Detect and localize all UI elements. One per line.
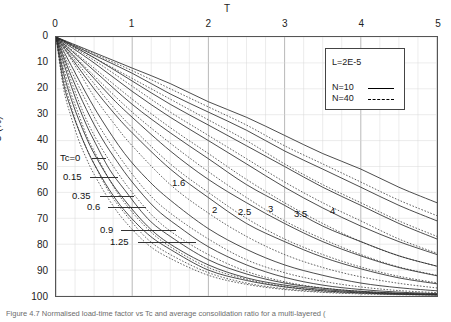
legend: L=2E-5 N=10 N=40 bbox=[325, 48, 405, 110]
curve-label: 2 bbox=[212, 204, 217, 215]
x-tick-label: 3 bbox=[273, 18, 297, 29]
curve-label-leader-line bbox=[92, 158, 106, 159]
curve-label: 1.25 bbox=[110, 236, 129, 247]
curve-label: 0.35 bbox=[72, 190, 91, 201]
x-tick-label: 2 bbox=[196, 18, 220, 29]
x-tick-label: 1 bbox=[120, 18, 144, 29]
curve-label-leader-line bbox=[108, 207, 146, 208]
y-tick-label: 100 bbox=[22, 291, 48, 303]
y-tick-label: 50 bbox=[22, 161, 48, 173]
curve-label-leader-line bbox=[100, 196, 134, 197]
y-tick-label: 80 bbox=[22, 239, 48, 251]
curve-label: 3 bbox=[268, 203, 273, 214]
curve-label: 3.5 bbox=[294, 208, 307, 219]
figure-container: T 012345 U (%) 0102030405060708090100 L=… bbox=[0, 0, 451, 322]
y-tick-label: 20 bbox=[22, 82, 48, 94]
curve-label: 0.15 bbox=[63, 171, 82, 182]
legend-title: L=2E-5 bbox=[332, 57, 361, 67]
curve-label: 2.5 bbox=[238, 206, 251, 217]
curve-label: 0.9 bbox=[100, 224, 113, 235]
x-axis-title: T bbox=[224, 3, 230, 14]
legend-swatch-solid-line bbox=[368, 88, 394, 89]
y-tick-label: 70 bbox=[22, 213, 48, 225]
curve-label-leader-line bbox=[90, 177, 118, 178]
curve-label-leader-line bbox=[121, 230, 176, 231]
y-tick-label: 60 bbox=[22, 187, 48, 199]
x-tick-label: 0 bbox=[43, 18, 67, 29]
curve-label-leader-line bbox=[138, 242, 196, 243]
y-axis-title: U (%) bbox=[0, 116, 3, 142]
y-tick-label: 10 bbox=[22, 56, 48, 68]
curve-label: 0.6 bbox=[87, 201, 100, 212]
y-tick-label: 40 bbox=[22, 134, 48, 146]
x-tick-label: 4 bbox=[349, 18, 373, 29]
legend-swatch-dashed-line bbox=[368, 99, 394, 100]
y-tick-label: 0 bbox=[22, 30, 48, 42]
legend-item-n10-label: N=10 bbox=[332, 82, 354, 92]
x-tick-label: 5 bbox=[426, 18, 450, 29]
figure-caption: Figure 4.7 Normalised load-time factor v… bbox=[6, 309, 451, 318]
y-tick-label: 30 bbox=[22, 108, 48, 120]
curve-label: Tc=0 bbox=[60, 152, 80, 163]
y-tick-label: 90 bbox=[22, 265, 48, 277]
curve-label: 4 bbox=[330, 205, 335, 216]
curve-label: 1.6 bbox=[172, 177, 185, 188]
legend-item-n40-label: N=40 bbox=[332, 93, 354, 103]
